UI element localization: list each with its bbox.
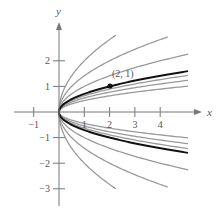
y-tick-label: 2 (45, 55, 50, 66)
highlighted-curve-lower (59, 112, 188, 153)
y-tick-label: −1 (39, 132, 50, 143)
x-ticks: −11234 (28, 107, 162, 130)
point-marker (107, 83, 112, 88)
x-tick-label: 2 (107, 119, 112, 130)
x-axis-label: x (206, 106, 212, 118)
y-axis-label: y (55, 5, 61, 17)
y-tick-label: −2 (39, 158, 50, 169)
y-tick-label: 1 (45, 81, 50, 92)
x-tick-label: −1 (28, 119, 39, 130)
parabola-family-chart: −11234 21−1−2−3 x y (2, 1) (0, 0, 223, 221)
y-tick-label: −3 (39, 183, 50, 194)
x-tick-label: 4 (158, 119, 163, 130)
y-axis-arrow-icon (56, 22, 62, 30)
x-axis-arrow-icon (194, 109, 202, 115)
x-tick-label: 1 (82, 119, 87, 130)
point-label: (2, 1) (112, 68, 134, 80)
x-tick-label: 3 (132, 119, 137, 130)
